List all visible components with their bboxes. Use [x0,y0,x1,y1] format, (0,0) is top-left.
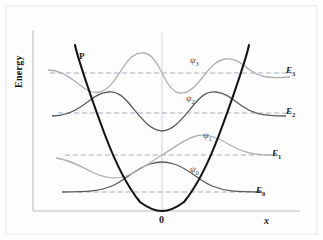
wavefunction-label-psi2-sub: 2 [192,98,195,105]
energy-level-label-E1-sub: 1 [278,153,281,160]
x-axis-label: x [264,216,269,226]
origin-label: 0 [159,215,164,225]
harmonic-oscillator-figure: Energy x 0 P E3 E2 E1 E0 ψ3 ψ2 ψ1 ψ0 [0,0,323,240]
energy-level-label-E0-sub: 0 [262,190,265,197]
wavefunction-label-psi0: ψ0 [190,165,199,176]
energy-level-label-E3: E3 [286,66,295,77]
energy-level-label-E3-sub: 3 [292,70,295,77]
wavefunction-label-psi3-sub: 3 [196,60,199,67]
wavefunction-psi1 [56,135,272,178]
energy-level-label-E0: E0 [256,186,265,197]
wavefunction-label-psi1: ψ1 [203,131,212,142]
wavefunction-label-psi1-sub: 1 [209,135,212,142]
plot-canvas [0,0,323,240]
wavefunction-label-psi0-sub: 0 [196,169,199,176]
wavefunction-label-psi3: ψ3 [190,56,199,67]
energy-level-label-E1: E1 [272,149,281,160]
wavefunction-label-psi2: ψ2 [186,94,195,105]
wavefunction-psi2 [52,92,286,131]
potential-curve-label: P [79,52,85,61]
energy-level-label-E2: E2 [286,107,295,118]
figure-border [6,6,317,234]
energy-level-label-E2-sub: 2 [292,111,295,118]
y-axis-label: Energy [14,55,24,88]
